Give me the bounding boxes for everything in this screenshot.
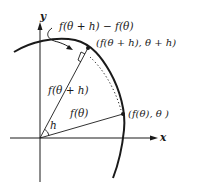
diagram-svg: y x f(θ + h) − f(θ) (f(θ + h), θ + h) f(… (0, 0, 200, 195)
point-upper-marker (86, 46, 90, 50)
radius-upper-label: f(θ + h) (47, 84, 89, 96)
point-lower-marker (121, 112, 125, 116)
polar-arc-length-diagram: y x f(θ + h) − f(θ) (f(θ + h), θ + h) f(… (0, 0, 200, 195)
y-axis (38, 22, 43, 182)
y-axis-arrow-icon (38, 22, 43, 30)
y-axis-label: y (39, 10, 47, 22)
radius-lower-label: f(θ) (69, 107, 88, 119)
x-axis-arrow-icon (150, 136, 158, 141)
difference-label: f(θ + h) − f(θ) (58, 20, 134, 32)
x-axis (10, 136, 158, 141)
point-lower-label: (f(θ), θ ) (128, 108, 169, 119)
point-upper-label: (f(θ + h), θ + h) (96, 37, 176, 48)
x-axis-label: x (159, 131, 167, 143)
angle-label: h (50, 119, 57, 131)
angle-arc (45, 130, 49, 136)
